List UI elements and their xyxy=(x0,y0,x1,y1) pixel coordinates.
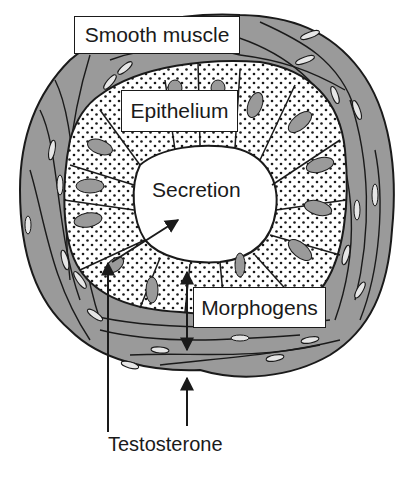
testosterone-label: Testosterone xyxy=(108,433,223,456)
morphogens-label: Morphogens xyxy=(193,287,326,328)
secretion-label: Secretion xyxy=(152,178,241,202)
epithelium-label: Epithelium xyxy=(121,90,238,132)
smooth-muscle-label: Smooth muscle xyxy=(74,16,240,54)
prostate-duct-diagram xyxy=(0,0,408,480)
lumen xyxy=(134,146,277,263)
